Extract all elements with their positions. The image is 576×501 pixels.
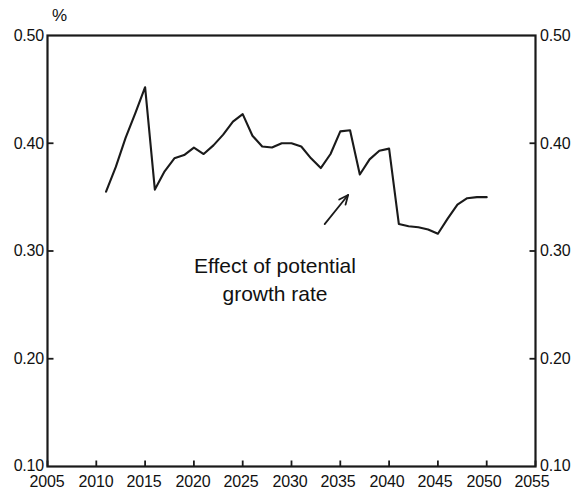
series-line-effect-of-potential-growth-rate (106, 87, 487, 234)
plot-area (0, 0, 576, 501)
annotation-arrow-icon (325, 195, 348, 224)
y-axis-ticks (48, 143, 536, 359)
plot-frame (48, 36, 536, 467)
chart-container: % 0.50 0.40 0.30 0.20 0.10 0.50 0.40 0.3… (0, 0, 576, 501)
